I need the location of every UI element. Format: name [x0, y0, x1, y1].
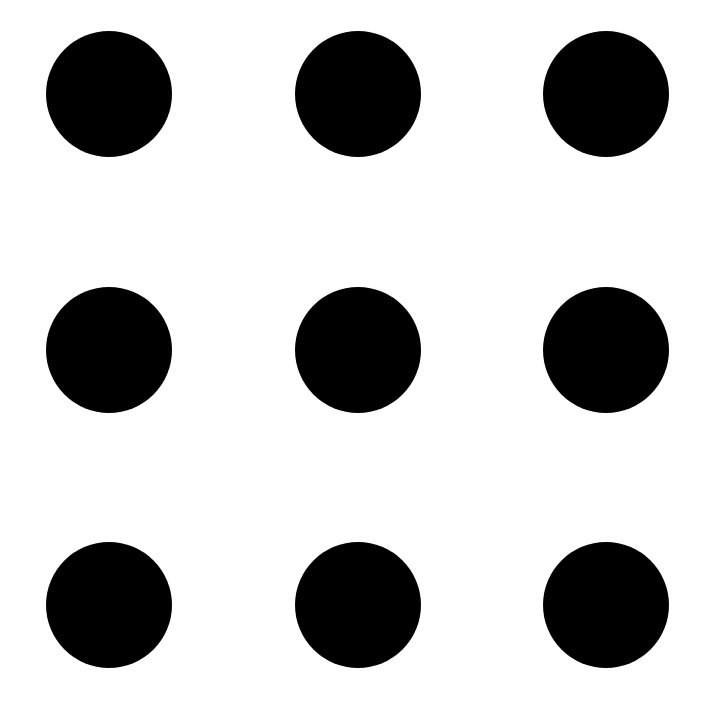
dot-r3-c1 — [46, 542, 172, 668]
dot-r1-c3 — [543, 31, 669, 157]
dot-grid-canvas — [0, 0, 704, 711]
dot-r2-c2 — [295, 287, 421, 413]
dot-r1-c2 — [295, 31, 421, 157]
dot-r2-c3 — [543, 287, 669, 413]
dot-r3-c2 — [295, 542, 421, 668]
dot-r3-c3 — [543, 542, 669, 668]
dot-r1-c1 — [46, 31, 172, 157]
dot-r2-c1 — [46, 287, 172, 413]
